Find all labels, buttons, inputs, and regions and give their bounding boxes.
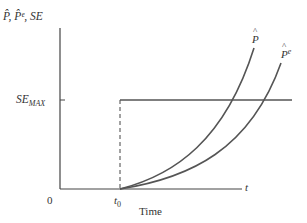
x-axis-end-label: t (245, 182, 248, 193)
x-axis-label: Time (139, 206, 162, 217)
origin-label: 0 (47, 195, 53, 206)
se-max-subscript: MAX (29, 99, 45, 108)
p-hat-label: ^ P (252, 34, 259, 45)
p-hat-hat: ^ (253, 27, 257, 36)
p-hat-e-hat: ^ (282, 42, 286, 51)
p-hat-e-label: ^ P e (281, 49, 291, 60)
p-hat-curve (120, 48, 254, 189)
diagram-canvas (0, 0, 307, 223)
p-hat-e-curve (120, 63, 281, 189)
se-max-base: SE (16, 93, 29, 105)
se-max-label: SEMAX (16, 94, 45, 106)
y-axis-label: P̂, P̂ᵉ, SE (3, 11, 43, 23)
p-hat-e-superscript: e (288, 47, 292, 56)
t0-label: t0 (114, 195, 121, 206)
t0-subscript: 0 (117, 200, 121, 209)
